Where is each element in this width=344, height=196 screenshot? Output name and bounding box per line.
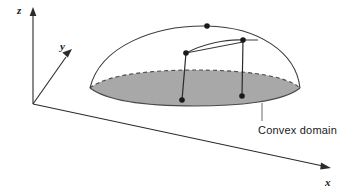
- convex-domain-annotation: Convex domain: [258, 103, 337, 136]
- right-base-point: [239, 93, 245, 99]
- z-axis-arrowhead: [30, 7, 37, 16]
- y-axis-line: [33, 57, 66, 104]
- figure-canvas: z y x: [0, 0, 344, 196]
- surface-secant-line: [186, 42, 243, 53]
- convex-domain-3d-figure: z y x: [0, 0, 344, 196]
- dome-apex-point: [204, 23, 210, 29]
- convex-domain-region: [90, 70, 300, 106]
- convex-domain-label: Convex domain: [258, 124, 337, 136]
- z-axis-label: z: [16, 4, 22, 16]
- left-base-point: [179, 97, 185, 103]
- left-surface-point: [183, 50, 189, 56]
- right-surface-point: [240, 37, 246, 43]
- x-axis-arrowhead: [320, 163, 331, 170]
- y-axis-label: y: [58, 40, 65, 52]
- x-axis-label: x: [324, 176, 331, 188]
